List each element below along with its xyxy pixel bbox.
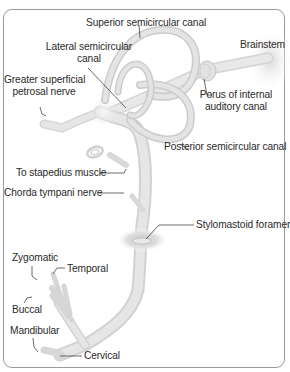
label-gsp-line2: petrosal nerve [4,86,84,98]
label-to-stapedius-muscle: To stapedius muscle [16,167,106,179]
label-greater-superficial-petrosal-nerve: Greater superficial petrosal nerve [4,74,84,98]
label-temporal: Temporal [67,263,108,275]
label-chorda-tympani-nerve: Chorda tympani nerve [4,187,102,199]
label-porus-line1: Porus of internal [192,89,280,101]
stapes-shape [86,145,126,165]
label-superior-semicircular-canal: Superior semicircular canal [86,17,206,29]
label-buccal: Buccal [12,304,42,316]
label-mandibular: Mandibular [10,325,59,337]
label-zygomatic: Zygomatic [12,252,58,264]
label-posterior-semicircular-canal: Posterior semicircular canal [164,141,286,153]
label-lateral-line2: canal [44,53,134,65]
label-lateral-semicircular-canal: Lateral semicircular canal [44,41,134,65]
label-stylomastoid-foramen: Stylomastoid foramen [196,219,290,231]
label-porus-internal-auditory-canal: Porus of internal auditory canal [192,89,280,113]
label-porus-line2: auditory canal [192,101,280,113]
label-lateral-line1: Lateral semicircular [44,41,134,53]
label-cervical: Cervical [84,350,120,362]
label-brainstem: Brainstem [240,39,285,51]
label-gsp-line1: Greater superficial [4,74,84,86]
